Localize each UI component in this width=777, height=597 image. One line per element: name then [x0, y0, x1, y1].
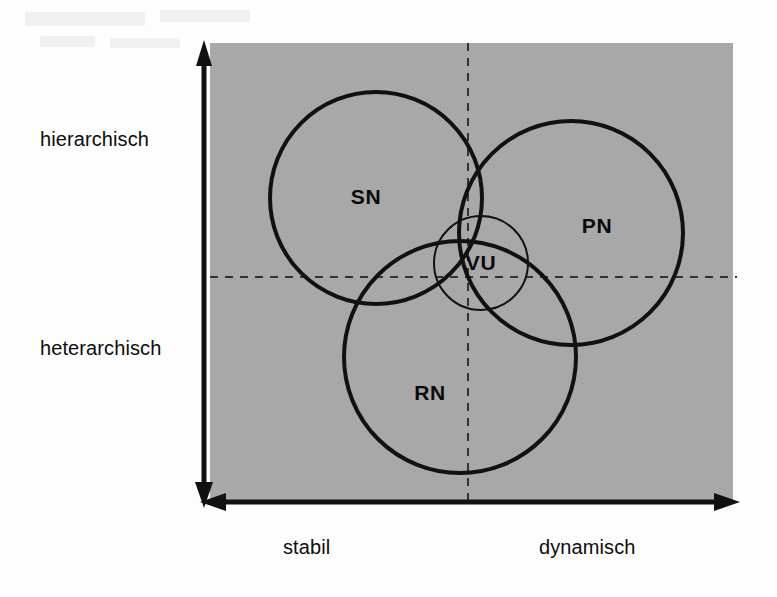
set-label-sn: SN	[351, 185, 381, 209]
axis-label-hierarchisch: hierarchisch	[40, 128, 149, 151]
axis-label-dynamisch: dynamisch	[539, 536, 636, 559]
set-label-vu: VU	[466, 251, 496, 275]
axis-label-heterarchisch: heterarchisch	[40, 337, 161, 360]
diagram-canvas	[0, 0, 777, 597]
set-label-pn: PN	[582, 214, 612, 238]
diagram-root: hierarchisch heterarchisch stabil dynami…	[0, 0, 777, 597]
set-label-rn: RN	[414, 381, 446, 405]
axis-label-stabil: stabil	[283, 536, 330, 559]
